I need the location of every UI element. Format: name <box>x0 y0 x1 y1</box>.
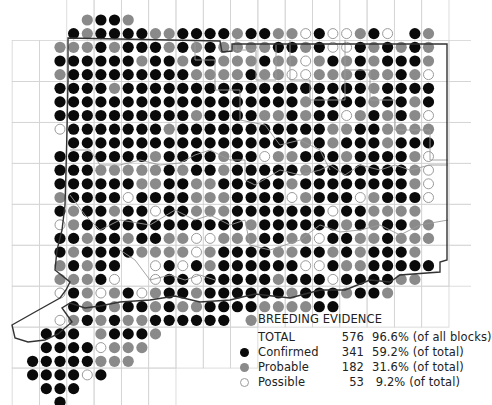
confirmed-dot <box>300 219 311 230</box>
confirmed-dot <box>259 219 270 230</box>
probable-dot <box>205 247 216 258</box>
probable-dot <box>232 55 243 66</box>
confirmed-dot <box>368 110 379 121</box>
confirmed-dot <box>327 96 338 107</box>
confirmed-dot <box>232 110 243 121</box>
probable-dot <box>54 42 65 53</box>
probable-dot <box>191 42 202 53</box>
filled-black-circle-icon <box>240 348 249 357</box>
confirmed-dot <box>136 328 147 339</box>
confirmed-dot <box>68 69 79 80</box>
atlas-block <box>449 40 471 81</box>
confirmed-dot <box>82 96 93 107</box>
confirmed-dot <box>246 124 257 135</box>
probable-dot <box>218 69 229 80</box>
confirmed-dot <box>314 287 325 298</box>
probable-dot <box>423 55 434 66</box>
confirmed-dot <box>177 206 188 217</box>
confirmed-dot <box>54 369 65 380</box>
confirmed-dot <box>191 124 202 135</box>
confirmed-dot <box>68 83 79 94</box>
atlas-block <box>203 327 230 368</box>
confirmed-dot <box>314 247 325 258</box>
confirmed-dot <box>164 151 175 162</box>
confirmed-dot <box>177 83 188 94</box>
confirmed-dot <box>355 69 366 80</box>
confirmed-dot <box>286 110 297 121</box>
atlas-block <box>12 245 39 286</box>
confirmed-dot <box>109 137 120 148</box>
confirmed-dot <box>341 137 352 148</box>
possible-dot <box>96 343 106 353</box>
atlas-block <box>176 327 203 368</box>
legend-label: Confirmed <box>258 345 334 360</box>
probable-dot <box>286 247 297 258</box>
confirmed-dot <box>259 206 270 217</box>
confirmed-dot <box>150 137 161 148</box>
confirmed-dot <box>68 369 79 380</box>
confirmed-dot <box>327 165 338 176</box>
confirmed-dot <box>382 55 393 66</box>
confirmed-dot <box>123 69 134 80</box>
probable-dot <box>341 260 352 271</box>
confirmed-dot <box>136 206 147 217</box>
legend-count: 182 <box>334 360 364 375</box>
confirmed-dot <box>259 287 270 298</box>
atlas-block <box>12 81 39 122</box>
confirmed-dot <box>150 42 161 53</box>
confirmed-dot <box>382 151 393 162</box>
confirmed-dot <box>259 83 270 94</box>
confirmed-dot <box>232 178 243 189</box>
probable-dot <box>259 301 270 312</box>
confirmed-dot <box>273 192 284 203</box>
confirmed-dot <box>136 110 147 121</box>
possible-dot <box>328 206 338 216</box>
confirmed-dot <box>355 83 366 94</box>
possible-dot <box>424 111 434 121</box>
confirmed-dot <box>409 55 420 66</box>
confirmed-dot <box>177 69 188 80</box>
confirmed-dot <box>95 83 106 94</box>
confirmed-dot <box>68 55 79 66</box>
probable-dot <box>409 274 420 285</box>
confirmed-dot <box>205 96 216 107</box>
probable-dot <box>368 219 379 230</box>
legend-label: TOTAL <box>258 330 334 345</box>
confirmed-dot <box>273 83 284 94</box>
confirmed-dot <box>164 178 175 189</box>
legend-count: 341 <box>334 345 364 360</box>
confirmed-dot <box>246 274 257 285</box>
probable-dot <box>218 192 229 203</box>
probable-dot <box>136 315 147 326</box>
confirmed-dot <box>82 192 93 203</box>
confirmed-dot <box>396 165 407 176</box>
confirmed-dot <box>423 137 434 148</box>
probable-dot <box>95 356 106 367</box>
probable-dot <box>355 110 366 121</box>
confirmed-dot <box>314 301 325 312</box>
confirmed-dot <box>246 206 257 217</box>
confirmed-dot <box>123 96 134 107</box>
atlas-block <box>449 204 471 245</box>
confirmed-dot <box>218 124 229 135</box>
legend-row-possible: Possible 53 9.2% (of total) <box>240 375 492 390</box>
confirmed-dot <box>177 124 188 135</box>
probable-dot <box>273 301 284 312</box>
confirmed-dot <box>246 260 257 271</box>
confirmed-dot <box>368 260 379 271</box>
confirmed-dot <box>150 124 161 135</box>
legend-percent: 31.6% (of total) <box>372 360 464 375</box>
confirmed-dot <box>368 165 379 176</box>
confirmed-dot <box>27 369 38 380</box>
confirmed-dot <box>82 110 93 121</box>
probable-dot <box>82 42 93 53</box>
confirmed-dot <box>150 69 161 80</box>
confirmed-dot <box>95 274 106 285</box>
confirmed-dot <box>273 260 284 271</box>
confirmed-dot <box>177 219 188 230</box>
confirmed-dot <box>95 28 106 39</box>
confirmed-dot <box>109 55 120 66</box>
probable-dot <box>341 55 352 66</box>
confirmed-dot <box>327 219 338 230</box>
confirmed-dot <box>218 260 229 271</box>
